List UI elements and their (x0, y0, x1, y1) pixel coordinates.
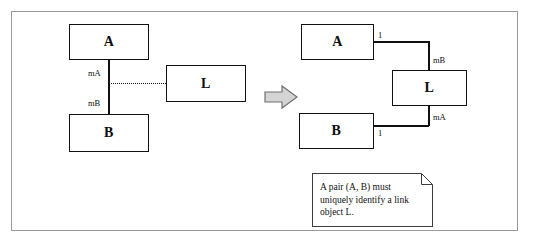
class-name-a-right: A (332, 35, 343, 49)
role-label-ma-right: mA (433, 113, 446, 122)
class-name-b-left: B (104, 126, 114, 140)
class-box-l-left[interactable]: L (166, 65, 246, 102)
connector-a-to-l-horizontal (374, 41, 429, 43)
role-label-ma-left: mA (88, 69, 101, 78)
class-box-l-right[interactable]: L (392, 70, 467, 106)
class-box-a-right[interactable]: A (301, 24, 374, 60)
connector-b-to-l-horizontal (374, 125, 429, 127)
class-box-a-left[interactable]: A (69, 24, 149, 60)
connector-a-to-l-vertical (428, 41, 430, 70)
diagram-canvas: A B L mA mB A (0, 0, 534, 250)
class-name-l-left: L (201, 77, 211, 91)
multiplicity-label-b-right: 1 (378, 129, 382, 138)
diagram-frame: A B L mA mB A (11, 11, 518, 231)
class-name-l-right: L (425, 81, 435, 95)
note-box[interactable]: A pair (A, B) must uniquely identify a l… (312, 173, 433, 227)
link-dotted-line-left (109, 83, 166, 84)
note-text: A pair (A, B) must uniquely identify a l… (320, 181, 426, 219)
role-label-mb-left: mB (88, 99, 100, 108)
class-name-b-right: B (332, 124, 342, 138)
right-arrow-icon (264, 84, 298, 110)
association-line-a-b (108, 60, 110, 114)
class-box-b-right[interactable]: B (299, 113, 374, 149)
class-box-b-left[interactable]: B (69, 114, 149, 152)
multiplicity-label-a-right: 1 (378, 31, 382, 40)
connector-b-to-l-vertical (428, 106, 430, 126)
role-label-mb-right: mB (433, 56, 445, 65)
class-name-a-left: A (104, 35, 115, 49)
